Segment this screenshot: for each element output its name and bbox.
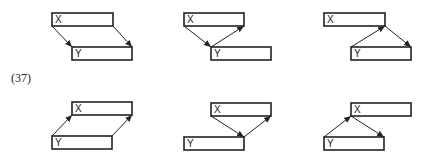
arrow — [211, 116, 244, 137]
commutative-diagrams: XYXYXYXYXYXY — [0, 0, 426, 162]
node-label-y: Y — [327, 138, 334, 149]
node-label-x: X — [214, 104, 221, 115]
diagram-panel-bottom-3: XY — [324, 103, 411, 150]
node-label-x: X — [55, 14, 62, 25]
node-label-y: Y — [75, 48, 82, 59]
diagram-panel-top-2: XY — [184, 13, 271, 60]
arrow — [52, 115, 72, 136]
diagram-panel-bottom-2: XY — [184, 103, 271, 150]
node-label-y: Y — [214, 48, 221, 59]
diagram-panel-top-1: XY — [52, 13, 132, 60]
node-label-y: Y — [354, 48, 361, 59]
arrow — [244, 116, 271, 137]
node-label-x: X — [354, 104, 361, 115]
arrow — [351, 26, 385, 47]
diagram-panel-top-3: XY — [324, 13, 411, 60]
arrow — [113, 26, 132, 47]
node-label-y: Y — [187, 138, 194, 149]
node-label-y: Y — [55, 137, 62, 148]
arrow — [385, 26, 411, 47]
arrow — [112, 115, 132, 136]
arrow — [324, 116, 351, 137]
node-label-x: X — [327, 14, 334, 25]
node-label-x: X — [75, 103, 82, 114]
arrow — [211, 26, 244, 47]
arrow — [52, 26, 72, 47]
arrow — [351, 116, 384, 137]
node-label-x: X — [187, 14, 194, 25]
arrow — [184, 26, 211, 47]
diagram-panel-bottom-1: XY — [52, 102, 132, 149]
